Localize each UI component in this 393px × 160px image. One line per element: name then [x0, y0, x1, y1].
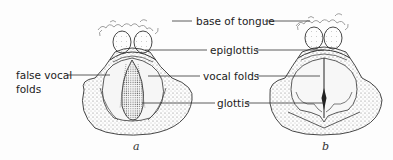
label-glottis: glottis [217, 97, 250, 109]
label-base-of-tongue: base of tongue [196, 15, 275, 27]
label-false-vocal-folds-line1: false vocal [16, 69, 72, 81]
label-epiglottis: epiglottis [210, 44, 259, 56]
label-false-vocal-folds-line2: folds [16, 83, 41, 95]
panel-a-larynx [82, 20, 192, 135]
larynx-diagram: base of tongue epiglottis false vocal fo… [0, 0, 393, 160]
label-vocal-folds: vocal folds [203, 70, 259, 82]
caption-panel-b: b [322, 140, 329, 153]
panel-b-larynx [270, 14, 382, 135]
caption-panel-a: a [133, 140, 140, 153]
